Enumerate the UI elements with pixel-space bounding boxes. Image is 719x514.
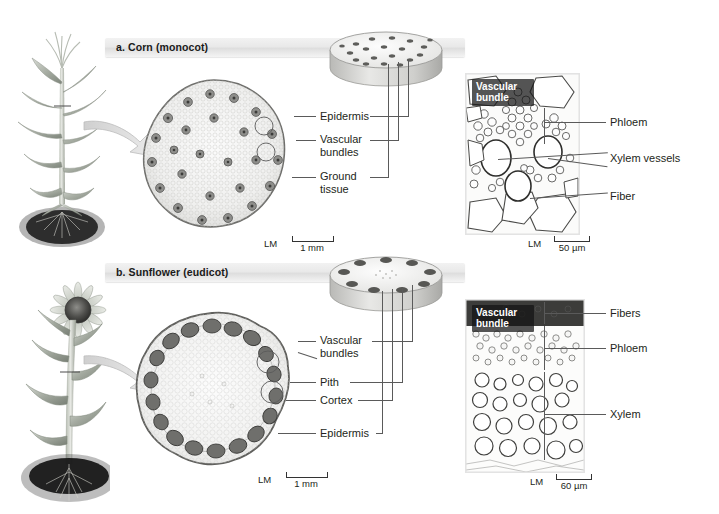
callout-cortex-sunflower: Cortex bbox=[320, 394, 352, 407]
sunflower-stem-cross-section bbox=[132, 310, 292, 468]
leader-epidermis-a2 bbox=[370, 116, 408, 117]
leader-cortex-b2 bbox=[358, 400, 392, 401]
panel-b-label: b. Sunflower (eudicot) bbox=[116, 266, 228, 278]
leader-pith-b1 bbox=[290, 382, 316, 383]
sunflower-drawing-scale-method: LM bbox=[258, 474, 271, 485]
leader-epidermis-b3 bbox=[382, 291, 383, 434]
callout-vascular-bundles-corn: Vascular bundles bbox=[320, 133, 384, 158]
callout-vascular-bundles-sunflower: Vascular bundles bbox=[320, 334, 384, 359]
leader-cortex-b3 bbox=[392, 289, 393, 401]
leader-phloem-a-v bbox=[544, 108, 545, 144]
callout-fibers-sunflower: Fibers bbox=[610, 307, 641, 320]
corn-micrograph-badge: Vascular bundle bbox=[472, 79, 534, 106]
sunflower-vascular-bundle-micrograph: Vascular bundle bbox=[466, 300, 584, 472]
sunflower-stem-cylinder bbox=[326, 247, 446, 315]
leader-bundles-b3 bbox=[412, 285, 413, 342]
leader-pith-b3 bbox=[402, 287, 403, 383]
callout-fiber-corn: Fiber bbox=[610, 190, 635, 203]
bracket-xylem-b bbox=[544, 372, 545, 460]
leader-bundles-a3 bbox=[398, 62, 399, 141]
callout-pith-sunflower: Pith bbox=[320, 376, 339, 389]
sunflower-micrograph-badge: Vascular bundle bbox=[472, 305, 534, 332]
corn-vascular-bundle-micrograph: Vascular bundle bbox=[466, 74, 579, 234]
callout-ground-tissue-corn: Ground tissue bbox=[320, 170, 384, 195]
callout-phloem-corn: Phloem bbox=[610, 116, 647, 129]
leader-fibers-b bbox=[544, 313, 606, 314]
callout-epidermis-corn: Epidermis bbox=[320, 110, 369, 123]
callout-epidermis-sunflower: Epidermis bbox=[320, 427, 369, 440]
leader-xylem-b bbox=[544, 414, 606, 415]
corn-stem-cross-section bbox=[140, 78, 288, 230]
leader-pith-b2 bbox=[350, 382, 402, 383]
sunflower-micrograph-scale: LM 60 µm bbox=[530, 470, 616, 494]
sunflower-drawing-scale: LM 1 mm bbox=[258, 468, 338, 492]
corn-micrograph-scale-value: 50 µm bbox=[548, 242, 596, 253]
leader-bundles-b1 bbox=[298, 341, 316, 342]
leader-ground-a3 bbox=[388, 64, 389, 178]
leader-bundles-a1 bbox=[296, 140, 316, 141]
corn-micrograph-scale: LM 50 µm bbox=[528, 232, 614, 256]
sunflower-micrograph-scale-value: 60 µm bbox=[550, 480, 598, 491]
leader-ground-a1 bbox=[292, 177, 316, 178]
leader-phloem-a-h bbox=[544, 122, 606, 123]
leader-bundles-b1b bbox=[298, 352, 317, 359]
panel-a-label: a. Corn (monocot) bbox=[116, 41, 208, 53]
leader-phloem-b bbox=[544, 348, 606, 349]
leader-epidermis-b1 bbox=[278, 433, 316, 434]
corn-stem-cylinder bbox=[326, 22, 446, 90]
figure-canvas: a. Corn (monocot) bbox=[0, 0, 719, 514]
corn-micrograph-scale-method: LM bbox=[528, 238, 541, 249]
callout-phloem-sunflower: Phloem bbox=[610, 342, 647, 355]
leader-epidermis-a3 bbox=[408, 60, 409, 117]
leader-cortex-b1 bbox=[286, 400, 316, 401]
sunflower-micrograph-scale-method: LM bbox=[530, 476, 543, 487]
corn-drawing-scale-method: LM bbox=[264, 238, 277, 249]
leader-epidermis-a1 bbox=[294, 116, 316, 117]
sunflower-drawing-scale-value: 1 mm bbox=[286, 478, 326, 489]
callout-xylem-vessels-corn: Xylem vessels bbox=[610, 152, 680, 165]
callout-xylem-sunflower: Xylem bbox=[610, 408, 641, 421]
